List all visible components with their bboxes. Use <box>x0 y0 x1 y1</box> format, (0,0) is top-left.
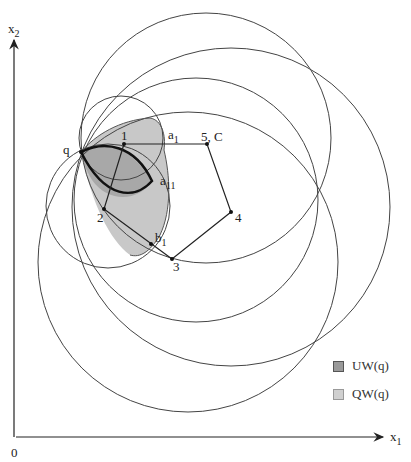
x-axis-label: x1 <box>390 430 402 443</box>
point-label-a11: a11 <box>160 174 175 187</box>
origin-label: 0 <box>11 446 18 459</box>
qw-swatch-icon <box>333 389 344 400</box>
point-label-a1: a1 <box>168 128 179 141</box>
legend-item-uw: UW(q) <box>333 358 389 374</box>
legend-item-qw: QW(q) <box>333 386 389 402</box>
y-axis-label: x2 <box>8 22 20 35</box>
point-label-b1: b1 <box>155 231 167 244</box>
point-label-5c: 5, C <box>201 130 223 143</box>
point-label-3: 3 <box>173 260 180 273</box>
point-label-q: q <box>63 143 70 156</box>
diagram-canvas: x2 x1 0 q 1 2 3 4 5, C a1 a11 b1 UW(q) Q… <box>0 0 411 462</box>
uw-swatch-icon <box>333 361 344 372</box>
point-label-4: 4 <box>235 211 242 224</box>
point-label-2: 2 <box>97 211 104 224</box>
point-label-1: 1 <box>121 129 128 142</box>
